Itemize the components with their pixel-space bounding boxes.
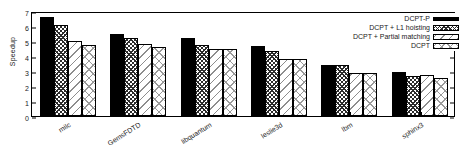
- y-tick-mark: [32, 58, 36, 59]
- y-tick-label: 4: [25, 55, 29, 62]
- x-tick-mark: [279, 112, 280, 116]
- y-tick-label: 5: [25, 40, 29, 47]
- y-tick-mark: [32, 88, 36, 89]
- bar: [392, 72, 406, 116]
- x-axis-category-label: sphinx3: [401, 121, 425, 140]
- y-tick-mark: [450, 58, 454, 59]
- x-axis-category-label: lbm: [341, 121, 354, 133]
- x-axis-labels: milcGemsFDTDlibquantumleslie3dlbmsphinx3: [31, 117, 455, 152]
- legend-label: DCPT: [411, 42, 430, 49]
- legend-item: DCPT: [411, 41, 459, 50]
- legend-item: DCPT + Partial matching: [353, 32, 459, 41]
- y-tick-mark: [32, 28, 36, 29]
- y-tick-mark: [450, 103, 454, 104]
- y-tick-label: 6: [25, 25, 29, 32]
- bar: [420, 75, 434, 116]
- x-axis-category-label: milc: [57, 121, 71, 134]
- legend-item: DCPT-P: [404, 14, 459, 23]
- x-tick-mark: [350, 112, 351, 116]
- y-tick-label: 1: [25, 100, 29, 107]
- bar: [68, 41, 82, 116]
- y-tick-label: 3: [25, 70, 29, 77]
- bar: [181, 38, 195, 116]
- bar: [293, 59, 307, 116]
- legend-swatch: [433, 34, 459, 40]
- bar: [279, 59, 293, 116]
- legend-label: DCPT + L1 hoisting: [369, 24, 430, 31]
- chart-legend: DCPT-PDCPT + L1 hoistingDCPT + Partial m…: [351, 13, 461, 51]
- legend-label: DCPT-P: [404, 15, 430, 22]
- bar: [434, 78, 448, 116]
- bar: [82, 45, 96, 116]
- bar: [152, 47, 166, 116]
- bar: [363, 73, 377, 116]
- x-tick-mark: [67, 112, 68, 116]
- bar: [251, 46, 265, 116]
- bar: [335, 65, 349, 116]
- speedup-bar-chart: Speedup 01234567 milcGemsFDTDlibquantuml…: [0, 0, 467, 152]
- bar: [54, 25, 68, 116]
- bar-group: [173, 13, 243, 116]
- y-tick-label: 7: [25, 10, 29, 17]
- bar: [349, 73, 363, 116]
- legend-label: DCPT + Partial matching: [353, 33, 430, 40]
- x-axis-category-label: libquantum: [180, 121, 213, 145]
- x-tick-mark: [421, 112, 422, 116]
- legend-swatch: [433, 17, 459, 21]
- y-tick-mark: [32, 73, 36, 74]
- bar: [321, 65, 335, 116]
- y-tick-mark: [32, 103, 36, 104]
- x-tick-mark: [209, 112, 210, 116]
- bar: [209, 49, 223, 116]
- bar: [406, 76, 420, 117]
- y-tick-mark: [450, 88, 454, 89]
- legend-swatch: [433, 43, 459, 49]
- legend-item: DCPT + L1 hoisting: [369, 23, 459, 32]
- bar: [138, 44, 152, 116]
- bar: [265, 51, 279, 116]
- bar: [195, 45, 209, 116]
- y-tick-label: 2: [25, 85, 29, 92]
- y-tick-mark: [32, 13, 36, 14]
- x-axis-category-label: GemsFDTD: [107, 121, 142, 147]
- bar: [124, 38, 138, 116]
- x-axis-category-label: leslie3d: [260, 121, 284, 140]
- x-tick-mark: [138, 112, 139, 116]
- legend-swatch: [433, 25, 459, 31]
- bar-group: [102, 13, 172, 116]
- y-tick-mark: [450, 73, 454, 74]
- y-axis-title: Speedup: [9, 22, 16, 82]
- y-tick-label: 0: [25, 115, 29, 122]
- bar: [223, 49, 237, 116]
- bar-group: [243, 13, 313, 116]
- bar: [110, 34, 124, 116]
- bar-group: [32, 13, 102, 116]
- bar: [40, 17, 54, 116]
- y-tick-mark: [32, 43, 36, 44]
